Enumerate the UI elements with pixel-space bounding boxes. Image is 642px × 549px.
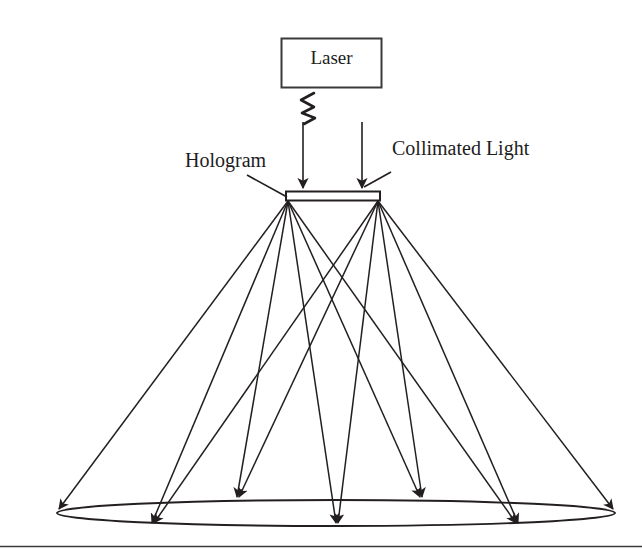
- ray-R6: [378, 201, 613, 509]
- ray-R5: [378, 201, 518, 523]
- laser-label: Laser: [281, 48, 382, 67]
- hologram-diagram-figure: Laser Hologram Collimated Light: [0, 0, 642, 549]
- laser-beam-squiggle-icon: [301, 93, 315, 124]
- leader-line-hologram: [247, 175, 287, 197]
- ray-L4: [288, 201, 336, 523]
- collimated-light-label: Collimated Light: [392, 138, 529, 158]
- leader-line-collimated: [364, 172, 391, 187]
- diagram-canvas: [0, 0, 642, 549]
- ray-fan-right: [154, 201, 613, 523]
- hologram-label: Hologram: [185, 150, 266, 170]
- hologram-plate: [286, 192, 380, 201]
- ray-L1: [59, 201, 288, 509]
- ray-L3: [237, 201, 288, 497]
- ray-L2: [152, 201, 288, 523]
